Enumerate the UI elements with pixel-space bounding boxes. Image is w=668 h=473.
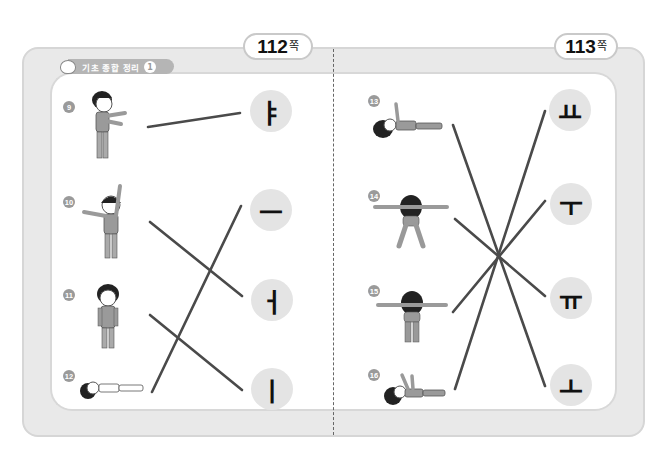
figure-14-icon bbox=[375, 195, 447, 246]
vowel-circle[interactable]: ㅠ bbox=[550, 277, 592, 319]
vowel-circle[interactable]: ㅜ bbox=[550, 183, 592, 225]
figure-13-icon bbox=[373, 104, 442, 138]
figure-10-icon bbox=[84, 186, 121, 258]
vowel-circle[interactable]: ㅓ bbox=[251, 279, 293, 321]
figure-11-icon bbox=[97, 284, 119, 348]
vowel-circle[interactable]: ㅑ bbox=[250, 90, 292, 132]
vowel-circle[interactable]: ㅣ bbox=[251, 368, 293, 410]
vowel-circle[interactable]: ㅗ bbox=[550, 364, 592, 406]
figure-12-icon bbox=[80, 382, 143, 399]
figure-16-icon bbox=[384, 375, 445, 405]
vowel-circle[interactable]: ㅛ bbox=[549, 89, 591, 131]
vowel-circle[interactable]: ㅡ bbox=[250, 189, 292, 231]
figure-15-icon bbox=[378, 291, 446, 342]
figure-9-icon bbox=[92, 91, 125, 158]
